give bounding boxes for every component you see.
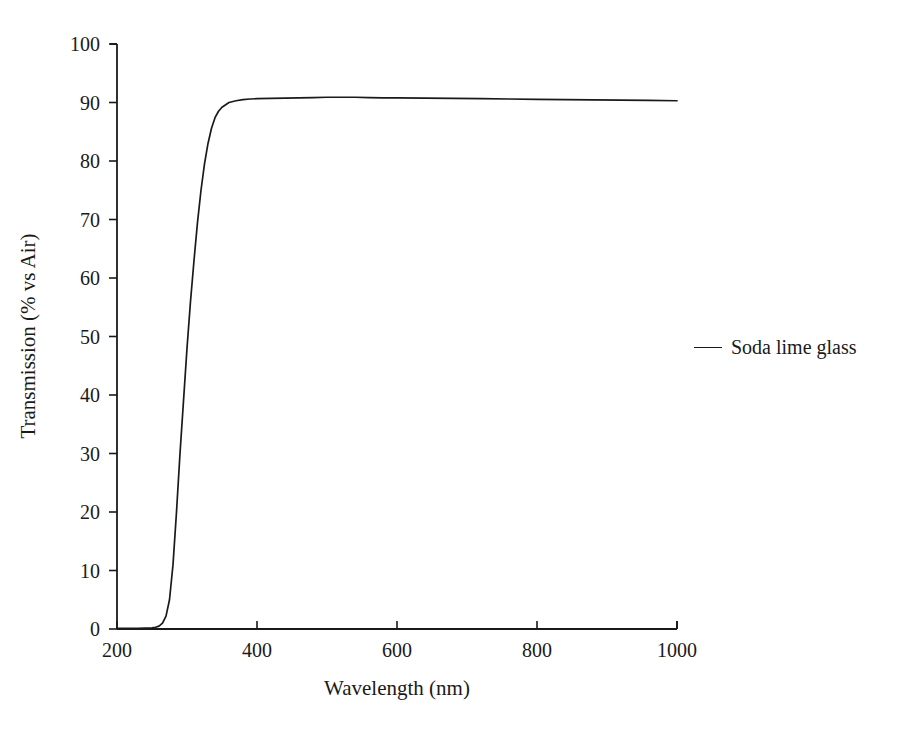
y-tick-label-40: 40	[48, 385, 100, 405]
x-tick-label-600: 600	[382, 640, 412, 660]
legend-label-soda-lime-glass: Soda lime glass	[731, 336, 857, 359]
y-tick-label-20: 20	[48, 502, 100, 522]
y-tick-label-10: 10	[48, 561, 100, 581]
x-axis-ticks	[117, 621, 677, 629]
legend: Soda lime glass	[694, 336, 857, 359]
x-tick-label-400: 400	[242, 640, 272, 660]
y-tick-label-50: 50	[48, 327, 100, 347]
data-series-soda-lime-glass	[117, 97, 677, 628]
x-tick-label-1000: 1000	[657, 640, 697, 660]
y-axis-title: Transmission (% vs Air)	[16, 136, 41, 536]
plot-area	[0, 0, 909, 732]
x-tick-label-800: 800	[522, 640, 552, 660]
x-axis-title: Wavelength (nm)	[324, 676, 470, 701]
legend-line-swatch	[694, 347, 722, 348]
y-tick-label-0: 0	[48, 619, 100, 639]
y-tick-label-60: 60	[48, 268, 100, 288]
figure-canvas: 0 10 20 30 40 50 60 70 80 90 100 200 400…	[0, 0, 909, 732]
y-tick-label-90: 90	[48, 93, 100, 113]
x-tick-label-200: 200	[102, 640, 132, 660]
y-tick-label-30: 30	[48, 444, 100, 464]
y-tick-label-100: 100	[48, 34, 100, 54]
y-tick-label-70: 70	[48, 210, 100, 230]
y-axis-ticks	[109, 44, 117, 629]
y-tick-label-80: 80	[48, 151, 100, 171]
